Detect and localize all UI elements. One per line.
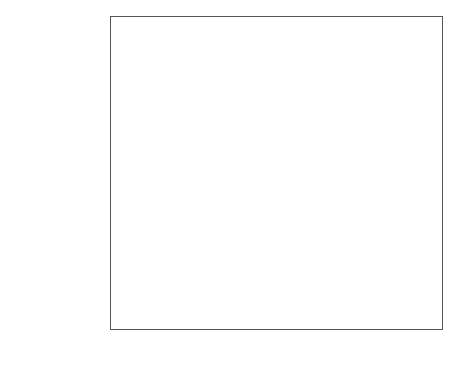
plot-area xyxy=(110,16,443,330)
chart-root xyxy=(0,0,467,378)
